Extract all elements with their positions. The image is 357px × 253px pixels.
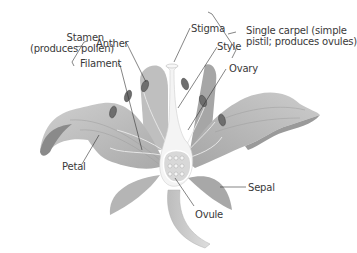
sepal-left — [110, 175, 160, 215]
label-sepal: Sepal — [248, 182, 275, 193]
stigma-cap — [166, 64, 178, 68]
label-stigma: Stigma — [191, 23, 225, 34]
label-carpel-line2: pistil; produces ovules) — [246, 36, 357, 47]
label-style: Style — [217, 41, 241, 52]
sepal-right — [188, 176, 232, 210]
label-petal: Petal — [62, 161, 86, 172]
label-anther: Anther — [96, 38, 129, 49]
label-stamen-line1: Stamen — [30, 32, 104, 43]
label-stamen: Stamen (produces pollen) — [30, 32, 104, 54]
label-carpel: Single carpel (simple pistil; produces o… — [246, 25, 357, 47]
label-carpel-line1: Single carpel (simple — [246, 25, 357, 36]
label-ovule: Ovule — [195, 209, 223, 220]
label-stamen-line2: (produces pollen) — [30, 43, 104, 54]
label-filament: Filament — [80, 58, 121, 69]
label-ovary: Ovary — [229, 63, 258, 74]
ovules — [168, 156, 184, 176]
